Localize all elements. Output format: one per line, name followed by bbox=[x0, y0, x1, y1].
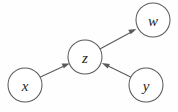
node-z[interactable]: z bbox=[68, 40, 102, 74]
node-z-label: z bbox=[81, 50, 88, 66]
node-y-label: y bbox=[141, 78, 150, 94]
edge-z-to-w-arrowhead bbox=[128, 29, 136, 34]
edge-x-to-z-arrowhead bbox=[62, 63, 70, 68]
node-group: x z w y bbox=[8, 3, 170, 102]
node-x[interactable]: x bbox=[8, 68, 42, 102]
diagram-canvas: x z w y bbox=[0, 0, 178, 112]
edge-z-to-w-line bbox=[100, 31, 133, 49]
node-w[interactable]: w bbox=[136, 3, 170, 37]
edge-z-to-w bbox=[100, 29, 136, 49]
node-x-label: x bbox=[21, 78, 29, 94]
node-y[interactable]: y bbox=[129, 68, 163, 102]
node-w-label: w bbox=[148, 13, 158, 29]
edge-y-to-z-arrowhead bbox=[102, 63, 110, 69]
graph-svg: x z w y bbox=[0, 0, 178, 112]
edge-x-to-z bbox=[40, 63, 69, 77]
edge-y-to-z-line bbox=[105, 65, 132, 78]
edge-y-to-z bbox=[102, 63, 132, 78]
edge-x-to-z-line bbox=[40, 65, 66, 77]
